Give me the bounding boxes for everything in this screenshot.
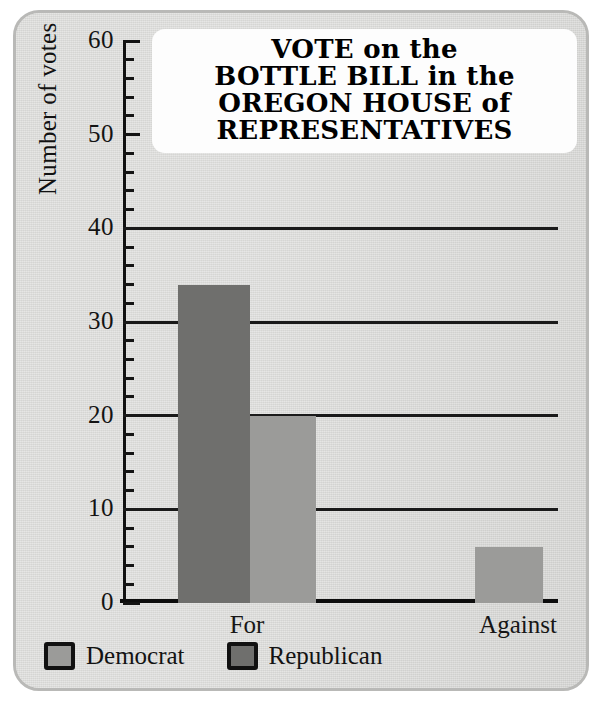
- y-tick-minor-14: [123, 470, 134, 473]
- y-tick-minor-2: [123, 583, 134, 586]
- bar-for-democrat: [250, 416, 316, 603]
- y-tick-label-20: 20: [88, 401, 114, 429]
- chart-legend: DemocratRepublican: [44, 642, 382, 670]
- bar-against-democrat: [475, 547, 543, 603]
- legend-label-democrat: Democrat: [86, 642, 185, 670]
- y-tick-label-40: 40: [88, 214, 114, 242]
- y-tick-label-60: 60: [88, 26, 114, 54]
- y-tick-label-10: 10: [88, 495, 114, 523]
- chart-title-plate: VOTE on theBOTTLE BILL in theOREGON HOUS…: [152, 29, 577, 153]
- y-tick-minor-6: [123, 545, 134, 548]
- y-tick-minor-56: [123, 77, 134, 80]
- gridline-40: [123, 227, 558, 230]
- y-tick-minor-46: [123, 171, 134, 174]
- y-tick-minor-22: [123, 395, 134, 398]
- y-tick-minor-54: [123, 96, 134, 99]
- y-tick-minor-18: [123, 433, 134, 436]
- y-tick-label-30: 30: [88, 307, 114, 335]
- y-tick-minor-12: [123, 489, 134, 492]
- y-tick-major-0: [123, 602, 140, 605]
- y-tick-minor-26: [123, 358, 134, 361]
- y-tick-minor-32: [123, 302, 134, 305]
- chart-title-line-2: BOTTLE BILL in the: [162, 63, 567, 90]
- chart-title-line-1: VOTE on the: [162, 36, 567, 63]
- y-tick-minor-34: [123, 283, 134, 286]
- legend-item-republican: Republican: [227, 642, 383, 670]
- y-tick-minor-58: [123, 58, 134, 61]
- y-tick-minor-52: [123, 114, 134, 117]
- y-tick-minor-4: [123, 564, 134, 567]
- y-tick-major-60: [123, 40, 140, 43]
- y-tick-minor-44: [123, 189, 134, 192]
- y-tick-label-0: 0: [101, 588, 114, 616]
- chart-title-line-4: REPRESENTATIVES: [162, 117, 567, 144]
- legend-swatch-democrat: [44, 642, 75, 670]
- y-tick-minor-16: [123, 452, 134, 455]
- y-tick-major-50: [123, 133, 140, 136]
- y-tick-minor-38: [123, 246, 134, 249]
- x-category-label-for: For: [230, 611, 265, 639]
- legend-item-democrat: Democrat: [44, 642, 185, 670]
- y-tick-minor-8: [123, 527, 134, 530]
- legend-swatch-republican: [227, 642, 258, 670]
- bar-for-republican: [178, 285, 250, 603]
- y-tick-minor-42: [123, 208, 134, 211]
- x-category-label-against: Against: [479, 611, 557, 639]
- y-tick-label-50: 50: [88, 120, 114, 148]
- y-tick-minor-48: [123, 152, 134, 155]
- y-axis-title: Number of votes: [34, 22, 62, 195]
- y-tick-minor-24: [123, 377, 134, 380]
- y-tick-minor-36: [123, 264, 134, 267]
- legend-label-republican: Republican: [269, 642, 383, 670]
- chart-card: Number of votes 0102030405060 ForAgainst…: [13, 10, 589, 691]
- y-tick-minor-28: [123, 339, 134, 342]
- chart-title-line-3: OREGON HOUSE of: [162, 90, 567, 117]
